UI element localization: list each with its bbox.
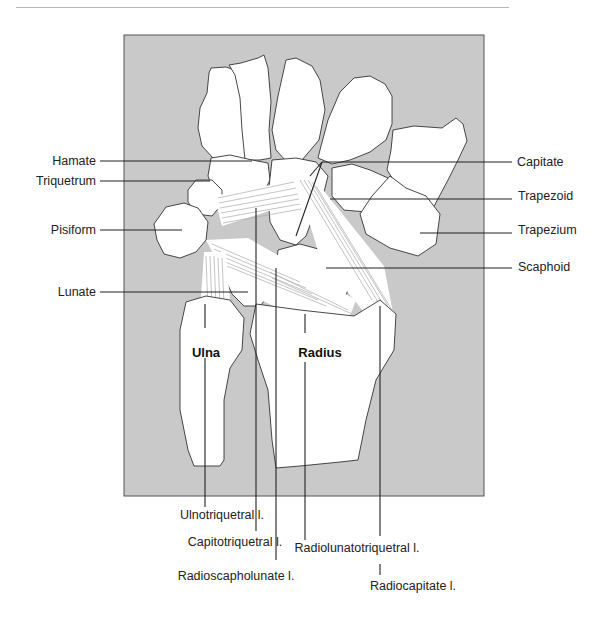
label-capitotriquetral: Capitotriquetral l.	[188, 535, 283, 549]
label-hamate: Hamate	[52, 154, 96, 168]
wrist-anatomy-diagram: Hamate Triquetrum Pisiform Lunate Capita…	[0, 0, 611, 617]
label-lunate: Lunate	[58, 285, 96, 299]
label-radiocapitate: Radiocapitate l.	[370, 579, 456, 593]
label-radius: Radius	[298, 345, 341, 360]
label-radioscapholunate: Radioscapholunate l.	[178, 569, 295, 583]
label-triquetrum: Triquetrum	[36, 174, 96, 188]
label-ulnotriquetral: Ulnotriquetral l.	[180, 508, 264, 522]
label-scaphoid: Scaphoid	[518, 260, 570, 274]
label-pisiform: Pisiform	[51, 223, 96, 237]
label-radiolunatotriquetral: Radiolunatotriquetral l.	[294, 541, 419, 555]
label-ulna: Ulna	[192, 345, 221, 360]
label-capitate: Capitate	[517, 155, 564, 169]
label-trapezium: Trapezium	[518, 223, 577, 237]
label-trapezoid: Trapezoid	[518, 189, 573, 203]
